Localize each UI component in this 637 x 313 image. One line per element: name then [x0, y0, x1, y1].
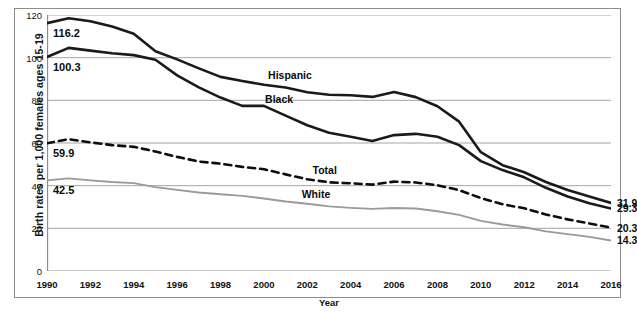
- series-label-hispanic: Hispanic: [268, 69, 312, 81]
- y-tick-label: 100: [26, 52, 42, 63]
- x-tick-label: 2000: [253, 279, 274, 290]
- x-tick-label: 2012: [514, 279, 535, 290]
- series-line-black: [47, 48, 611, 209]
- series-label-black: Black: [265, 93, 293, 105]
- start-value-label-total: 59.9: [53, 147, 74, 159]
- x-tick-label: 2014: [557, 279, 578, 290]
- plot-area: 020406080100120 199019921994199619982000…: [47, 15, 611, 271]
- y-tick-label: 80: [31, 95, 42, 106]
- x-tick-label: 1990: [36, 279, 57, 290]
- y-axis-label: Birth rates per 1,000 females ages 15-19: [33, 15, 45, 255]
- x-tick-label: 2006: [383, 279, 404, 290]
- x-tick-label: 2002: [297, 279, 318, 290]
- series-label-white: White: [302, 188, 331, 200]
- end-value-label-total: 20.3: [617, 222, 637, 234]
- y-tick-label: 20: [31, 223, 42, 234]
- end-value-label-white: 14.3: [617, 234, 637, 246]
- x-tick-label: 2004: [340, 279, 361, 290]
- x-tick-label: 1992: [80, 279, 101, 290]
- y-tick-label: 0: [37, 266, 42, 277]
- start-value-label-black: 100.3: [53, 61, 81, 73]
- x-tick-label: 2008: [427, 279, 448, 290]
- chart-svg: [47, 15, 611, 271]
- start-value-label-hispanic: 116.2: [53, 27, 80, 39]
- series-label-total: Total: [313, 164, 337, 176]
- x-tick-label: 2016: [600, 279, 621, 290]
- x-axis-label: Year: [47, 297, 611, 308]
- y-tick-label: 120: [26, 10, 42, 21]
- x-tick-label: 1998: [210, 279, 231, 290]
- x-tick-label: 1996: [167, 279, 188, 290]
- end-value-label-black: 29.3: [617, 202, 637, 214]
- y-tick-label: 40: [31, 180, 42, 191]
- start-value-label-white: 42.5: [53, 184, 74, 196]
- x-tick-label: 2010: [470, 279, 491, 290]
- x-tick-label: 1994: [123, 279, 144, 290]
- y-tick-label: 60: [31, 138, 42, 149]
- chart-frame: Birth rates per 1,000 females ages 15-19…: [14, 8, 621, 298]
